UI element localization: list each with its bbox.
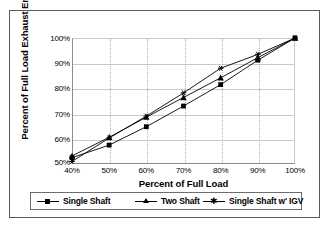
x-tick-label: 80% <box>201 166 241 175</box>
star-marker-icon: ✱ <box>203 196 225 206</box>
legend-item-single-shaft-igv[interactable]: ✱ Single Shaft w' IGV <box>203 193 303 209</box>
data-point-marker <box>180 94 186 100</box>
data-point-marker <box>217 75 223 81</box>
chart-plot-region: Percent of Full Load Exhaust Energy 100%… <box>0 0 331 240</box>
y-tick-label: 100% <box>26 34 70 43</box>
x-tick-label: 40% <box>52 166 92 175</box>
legend-label: Single Shaft w' IGV <box>229 196 303 206</box>
y-tick-label: 90% <box>26 59 70 68</box>
x-tick-label: 60% <box>126 166 166 175</box>
data-point-marker <box>181 104 186 109</box>
x-axis-label: Percent of Full Load <box>72 178 295 189</box>
x-tick-label: 90% <box>238 166 278 175</box>
legend-item-two-shaft[interactable]: Two Shaft <box>135 193 200 209</box>
legend-item-single-shaft[interactable]: Single Shaft <box>37 193 110 209</box>
series-layer <box>72 38 295 164</box>
square-marker-icon <box>37 196 59 206</box>
data-point-marker <box>218 82 223 87</box>
x-axis-ticks: 40% 50% 60% 70% 80% 90% 100% <box>72 166 295 178</box>
triangle-marker-icon <box>135 196 157 206</box>
data-point-marker <box>107 143 112 148</box>
y-axis-ticks: 100% 90% 80% 70% 60% 50% <box>24 38 70 164</box>
legend-label: Two Shaft <box>161 196 200 206</box>
chart-legend: Single Shaft Two Shaft ✱ Single Shaft w'… <box>30 192 302 210</box>
x-tick-label: 100% <box>275 166 315 175</box>
y-tick-label: 60% <box>26 135 70 144</box>
y-tick-label: 70% <box>26 110 70 119</box>
x-tick-label: 50% <box>89 166 129 175</box>
x-tick-label: 70% <box>164 166 204 175</box>
chart-figure: Percent of Full Load Exhaust Energy 100%… <box>0 0 331 240</box>
data-point-marker <box>144 124 149 129</box>
y-tick-label: 80% <box>26 84 70 93</box>
legend-label: Single Shaft <box>63 196 110 206</box>
